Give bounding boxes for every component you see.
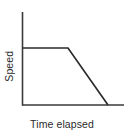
speed-vs-time-chart: Speed Time elapsed	[0, 0, 124, 132]
x-axis-label-text: Time elapsed	[30, 118, 94, 130]
speed-data-line	[22, 48, 108, 105]
chart-plot-area	[0, 0, 124, 132]
y-axis-label: Speed	[0, 0, 18, 132]
x-axis-label: Time elapsed	[0, 119, 124, 130]
y-axis-label-text: Speed	[4, 51, 15, 82]
